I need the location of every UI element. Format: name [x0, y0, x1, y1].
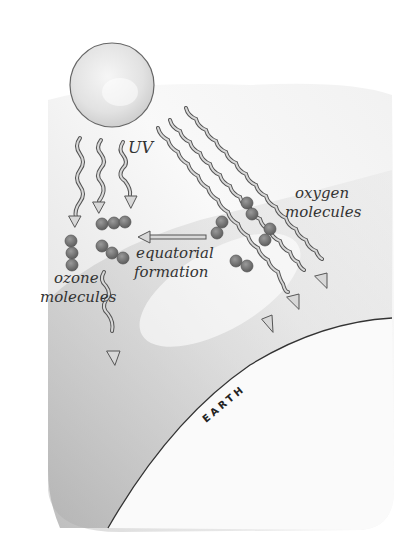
- ozone-label-line2: molecules: [40, 288, 117, 306]
- sun: [70, 43, 154, 127]
- oxygen-label-line2: molecules: [285, 203, 362, 221]
- equatorial-label-line2: formation: [133, 263, 208, 281]
- ozone-diagram: EARTH UV: [0, 0, 413, 559]
- oxygen-label-line1: oxygen: [295, 184, 349, 202]
- uv-label: UV: [128, 138, 154, 157]
- ozone-molecule-icon: [65, 235, 78, 271]
- ozone-label-line1: ozone: [54, 269, 99, 287]
- ozone-molecule-icon: [96, 216, 131, 230]
- equatorial-label-line1: equatorial: [136, 244, 214, 262]
